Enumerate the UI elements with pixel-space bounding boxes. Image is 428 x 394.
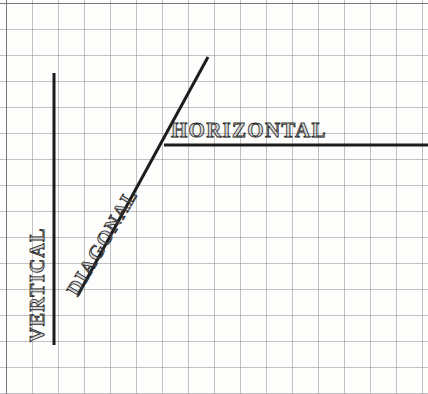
label-horizontal: HORIZONTAL: [171, 118, 327, 143]
diagram-canvas: HORIZONTAL VERTICAL DIAGONAL: [0, 0, 428, 394]
label-vertical: VERTICAL: [26, 228, 49, 342]
drawn-lines-layer: [0, 0, 428, 394]
